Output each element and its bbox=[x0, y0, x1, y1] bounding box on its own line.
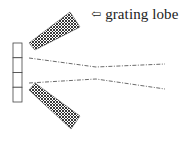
grating-lobe-label-text: grating lobe bbox=[105, 6, 178, 22]
main-beam bbox=[29, 58, 165, 89]
upper-grating-lobe bbox=[29, 12, 80, 50]
grating-lobe-label: ⇦grating lobe bbox=[91, 6, 178, 23]
lower-grating-lobe bbox=[29, 83, 80, 129]
left-arrow-icon: ⇦ bbox=[91, 7, 101, 22]
array-element-2 bbox=[13, 58, 22, 73]
main-beam-lower-edge bbox=[29, 79, 165, 89]
array-element-4 bbox=[13, 87, 22, 102]
transducer-array bbox=[13, 43, 22, 102]
main-beam-upper-edge bbox=[29, 58, 165, 67]
array-element-3 bbox=[13, 73, 22, 88]
array-element-1 bbox=[13, 43, 22, 58]
